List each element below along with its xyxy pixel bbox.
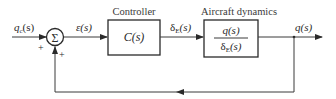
error-label: ε(s) [76,21,92,34]
feedback-arrow-icon [176,89,184,95]
feedback-plus-sign: + [59,49,65,60]
control-signal: δE(s) [160,21,203,37]
reference-plus-sign: + [38,42,44,53]
summing-input-arrow-icon [52,46,58,54]
control-arg: (s) [179,21,191,34]
plant-denominator-arg: (s) [230,40,242,53]
summing-junction: Σ + + [38,29,65,61]
sigma-icon: Σ [52,31,59,45]
controller-block: Controller C(s) [108,6,160,55]
controller-transfer-function: C(s) [124,30,145,44]
plant-numerator: q(s) [222,24,239,37]
svg-text:qc(s): qc(s) [14,21,35,35]
plant-title: Aircraft dynamics [201,6,277,17]
output-label: q(s) [295,21,312,34]
aircraft-dynamics-block: Aircraft dynamics q(s) δE(s) [201,6,277,57]
controller-title: Controller [112,6,156,17]
input-arg: (s) [23,21,35,34]
input-signal: qc(s) [12,21,46,37]
output-signal: q(s) [258,21,322,38]
error-signal: ε(s) [64,21,108,37]
svg-text:δE(s): δE(s) [220,40,241,54]
svg-text:δE(s): δE(s) [170,21,191,35]
block-diagram: qc(s) Σ + + ε(s) Controller C(s) δE(s) A… [0,0,336,99]
